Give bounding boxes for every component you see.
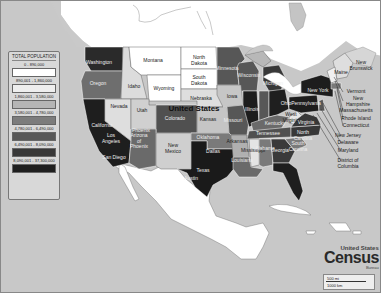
state-label: Texas — [196, 168, 209, 174]
state-label: Tennessee — [256, 131, 280, 137]
state-label: Idaho — [128, 84, 141, 90]
callout-label: Connecticut — [343, 123, 369, 129]
state-label: California — [91, 123, 112, 129]
state-label: North Dakota — [191, 55, 207, 66]
state-label: Louisiana — [231, 158, 252, 164]
callout-label: New Hampshire — [346, 96, 370, 107]
map-frame: WashingtonOregonIdahoMontanaNorth Dakota… — [0, 0, 381, 293]
state-label: South Carolina — [289, 141, 308, 152]
state-label: Missouri — [224, 118, 243, 124]
state-label: Kansas — [200, 117, 217, 123]
state-label: Maine — [334, 70, 348, 76]
scale-line — [326, 281, 366, 282]
state-label: Arizona of Phoenix — [130, 133, 148, 150]
legend-range: 8,090,001 - 37,300,000 — [12, 158, 56, 164]
legend-swatch — [12, 68, 56, 77]
scale-bar: 500 mi 1000 km — [323, 274, 375, 290]
state-label: New Mexico — [165, 143, 181, 154]
scale-km: 1000 km — [327, 283, 342, 288]
legend-item: 3,580,001 - 4,780,000 — [12, 110, 56, 125]
legend-swatch — [12, 148, 56, 157]
legend-item: 4,780,001 - 6,490,000 — [12, 126, 56, 141]
legend-item: 890,001 - 1,860,000 — [12, 78, 56, 93]
state-label: Wisconsin — [238, 73, 261, 79]
state-label: Los Angeles — [102, 133, 120, 144]
legend-range: 6,490,001 - 8,090,000 — [12, 142, 56, 148]
legend-item: 0 - 890,000 — [12, 62, 56, 77]
state-label: Michigan — [263, 81, 283, 87]
state-label: Pennsylvania — [291, 101, 321, 107]
callout-label: District of Columbia — [337, 158, 358, 169]
country-label: United States — [168, 106, 219, 112]
callout-label: Delaware — [337, 140, 358, 146]
state-label: Dallas — [206, 149, 220, 155]
legend-swatch — [12, 116, 56, 125]
state-label: Virginia — [298, 120, 315, 126]
callout-label: Rhode Island — [341, 116, 370, 122]
legend-range: 4,780,001 - 6,490,000 — [12, 126, 56, 132]
legend-range: 1,860,001 - 3,580,000 — [12, 94, 56, 100]
legend-swatch — [12, 84, 56, 93]
state-label: Phoenix — [132, 128, 150, 134]
state-label: Wyoming — [154, 86, 175, 92]
state-label: Utah — [137, 108, 148, 114]
state-label: Oregon — [90, 81, 107, 87]
state-label: Iowa — [227, 94, 238, 100]
callout-label: Massachusetts — [339, 108, 372, 114]
state-label: Illinois — [245, 107, 259, 113]
census-logo: United States Census Bureau — [324, 245, 379, 270]
state-label: New Brunswick — [350, 60, 373, 71]
legend-item: 8,090,001 - 37,300,000 — [12, 158, 56, 173]
state-label: Montana — [143, 58, 162, 64]
legend-item: 6,490,001 - 8,090,000 — [12, 142, 56, 157]
legend-swatch — [12, 164, 56, 173]
state-label: Georgia — [271, 148, 289, 154]
legend-item: 1,860,001 - 3,580,000 — [12, 94, 56, 109]
state-label: South Dakota — [191, 75, 207, 86]
legend-range: 3,580,001 - 4,780,000 — [12, 110, 56, 116]
callout-label: Maryland — [338, 148, 359, 154]
state-label: Ohio — [281, 101, 292, 107]
legend: TOTAL POPULATION 0 - 890,000890,001 - 1,… — [8, 51, 60, 200]
logo-line2: Census — [324, 251, 379, 265]
state-label: Arkansas — [227, 139, 248, 145]
state-label: Colorado — [165, 116, 185, 122]
state-label: Washington — [86, 60, 112, 66]
callout-label: New Jersey — [335, 133, 361, 139]
legend-range: 890,001 - 1,860,000 — [12, 78, 56, 84]
state-label: Minnesota — [215, 66, 238, 72]
state-label: San Diego — [102, 155, 125, 161]
legend-title: TOTAL POPULATION — [12, 54, 56, 61]
state-label: Nebraska — [190, 96, 211, 102]
state-label: Oklahoma — [197, 135, 220, 141]
legend-swatch — [12, 132, 56, 141]
state-label: New York — [307, 88, 328, 94]
state-label: Austin — [184, 176, 198, 182]
legend-swatch — [12, 100, 56, 109]
state-label: Nevada — [110, 104, 127, 110]
